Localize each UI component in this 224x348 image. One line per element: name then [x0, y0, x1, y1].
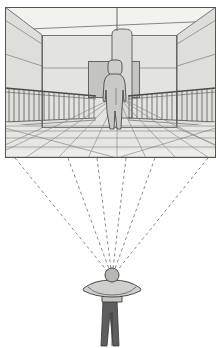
diagram-svg: [0, 0, 224, 348]
scene-person-head: [108, 60, 122, 75]
figure-canvas: One-point perspective viewing diagram Fr…: [0, 0, 224, 348]
perspective-image-panel[interactable]: [0, 7, 224, 158]
observer-head: [105, 268, 119, 282]
